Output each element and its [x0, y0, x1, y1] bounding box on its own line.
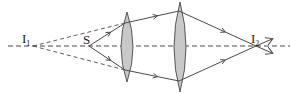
ray-lower-segment: [89, 46, 125, 70]
virtual-rays: [33, 23, 125, 70]
label-S: S: [83, 32, 90, 47]
ray-upper-segment: [89, 23, 125, 46]
ray-lower-segment: [179, 46, 256, 81]
optics-diagram: I1SI2: [0, 0, 292, 93]
ray-upper-segment: [125, 11, 179, 23]
ray-upper-segment: [179, 11, 256, 46]
virtual-upper-line: [33, 23, 125, 46]
label-I2: I2: [251, 31, 259, 48]
virtual-lower-line: [33, 46, 125, 70]
ray-lower-segment: [125, 70, 179, 81]
label-I1: I1: [22, 31, 30, 48]
lenses: [121, 2, 186, 92]
